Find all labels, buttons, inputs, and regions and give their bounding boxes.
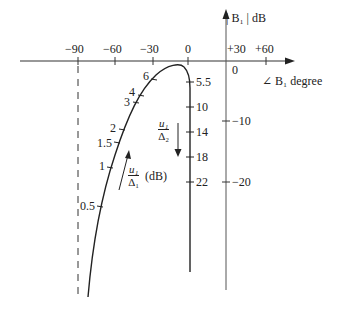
curve-label: 22 bbox=[196, 176, 208, 188]
curve-label: 0.5 bbox=[80, 200, 95, 212]
curve-label: 5.5 bbox=[196, 76, 211, 88]
arrow-down-icon bbox=[175, 149, 182, 157]
curve-label: 2 bbox=[110, 122, 116, 134]
y-tick-label: −10 bbox=[232, 115, 251, 127]
curve-label: 6 bbox=[143, 70, 149, 82]
y-axis-label: | B₁ | dB bbox=[226, 12, 266, 24]
curve-label: 1.5 bbox=[97, 137, 112, 149]
x-tick-label: +60 bbox=[255, 43, 274, 55]
x-tick-label: −30 bbox=[140, 43, 159, 55]
arrow-up-icon bbox=[125, 150, 131, 159]
x-tick-label: −60 bbox=[103, 43, 122, 55]
x-tick-label: 0 bbox=[185, 43, 191, 55]
annotation-suffix: (dB) bbox=[145, 170, 167, 182]
annotation-u1-delta2: u₁ Δ₂ bbox=[158, 117, 169, 142]
curve-label: 1 bbox=[99, 160, 105, 172]
y-tick-label: −20 bbox=[232, 176, 251, 188]
diagram-canvas bbox=[0, 0, 341, 315]
curve-label: 10 bbox=[196, 101, 208, 113]
curve-u1-delta2 bbox=[184, 67, 190, 272]
x-axis-arrow-icon bbox=[285, 58, 295, 65]
x-axis-label: ∠ B₁ degree bbox=[262, 75, 322, 87]
x-tick-label: −90 bbox=[65, 43, 84, 55]
x-tick-label: +30 bbox=[227, 43, 246, 55]
curve-label: 18 bbox=[196, 151, 208, 163]
curve-label: 3 bbox=[124, 96, 130, 108]
annotation-u1-delta1: u₁ Δ₁ bbox=[128, 163, 139, 188]
origin-label: 0 bbox=[232, 64, 238, 76]
curve-label: 14 bbox=[196, 126, 208, 138]
